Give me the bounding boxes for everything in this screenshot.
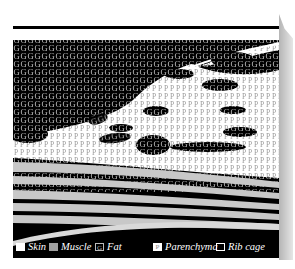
diagram-frame: G P <box>13 12 279 258</box>
tissue-diagram: G P <box>13 12 279 258</box>
legend-item-parenchyma: P Parenchyma <box>153 241 218 252</box>
legend-label: Parenchyma <box>165 241 218 252</box>
parenchyma-swatch-icon: P <box>153 243 162 251</box>
legend-label: Fat <box>107 241 122 252</box>
fat-swatch-icon: G <box>95 243 104 251</box>
rib-cage-swatch-icon <box>216 243 225 251</box>
legend: Skin Muscle G Fat P Parenchyma Rib cage <box>13 237 279 255</box>
legend-label: Skin <box>28 241 46 252</box>
legend-item-skin: Skin <box>16 241 46 252</box>
legend-label: Muscle <box>61 241 91 252</box>
legend-label: Rib cage <box>228 241 265 252</box>
legend-item-muscle: Muscle <box>49 241 91 252</box>
skin-swatch-icon <box>16 243 25 251</box>
legend-item-rib-cage: Rib cage <box>216 241 265 252</box>
muscle-swatch-icon <box>49 243 58 251</box>
skin-layer <box>13 12 279 40</box>
frame-shadow <box>279 14 293 260</box>
legend-item-fat: G Fat <box>95 241 122 252</box>
